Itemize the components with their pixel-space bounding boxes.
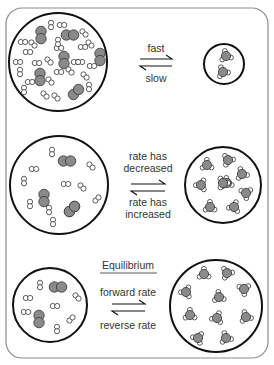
large-atom — [56, 282, 66, 292]
small-atom — [30, 79, 35, 84]
small-diatomic-molecule — [37, 280, 42, 290]
small-atom — [83, 44, 88, 49]
forward-label-2a: rate has — [129, 150, 167, 162]
large-atom — [196, 180, 205, 189]
small-diatomic-molecule — [61, 181, 71, 186]
small-diatomic-molecule — [55, 37, 60, 47]
small-atom — [46, 210, 51, 215]
small-diatomic-molecule — [18, 39, 28, 44]
small-diatomic-molecule — [13, 59, 23, 64]
small-atom — [59, 69, 64, 74]
small-atom — [89, 43, 94, 48]
large-atom — [65, 156, 75, 166]
small-atom — [49, 152, 54, 157]
large-atom — [69, 201, 79, 211]
small-atom — [26, 309, 31, 314]
reverse-label-1: slow — [145, 72, 166, 84]
small-atom — [92, 63, 97, 68]
large-atom — [73, 84, 83, 94]
large-diatomic-molecule — [59, 51, 69, 69]
small-atom — [55, 96, 60, 101]
large-atom — [222, 268, 231, 277]
forward-label-2b: decreased — [123, 162, 172, 174]
small-atom — [44, 94, 49, 99]
small-atom — [70, 315, 75, 320]
small-atom — [28, 295, 33, 300]
small-atom — [48, 25, 53, 30]
small-atom — [34, 166, 39, 171]
small-atom — [66, 181, 71, 186]
small-diatomic-molecule — [21, 309, 31, 314]
small-atom — [76, 59, 81, 64]
small-atom — [83, 32, 88, 37]
small-atom — [21, 90, 26, 95]
forward-label-3: forward rate — [100, 286, 156, 298]
small-atom — [76, 296, 81, 301]
large-atom — [241, 188, 250, 197]
large-atom — [68, 30, 78, 40]
small-diatomic-molecule — [21, 176, 26, 186]
large-atom — [199, 269, 208, 278]
small-atom — [54, 329, 59, 334]
small-atom — [49, 80, 54, 85]
small-diatomic-molecule — [71, 59, 81, 64]
large-atom — [237, 169, 246, 178]
small-diatomic-molecule — [78, 44, 88, 49]
small-diatomic-molecule — [23, 295, 33, 300]
product-container-3 — [170, 260, 262, 352]
small-diatomic-molecule — [46, 205, 51, 215]
reverse-label-3: reverse rate — [100, 319, 156, 331]
small-atom — [37, 285, 42, 290]
large-atom — [34, 317, 44, 327]
large-atom — [214, 292, 223, 301]
large-diatomic-molecule — [58, 156, 76, 166]
large-atom — [218, 67, 227, 76]
large-atom — [241, 312, 250, 321]
small-diatomic-molecule — [27, 199, 32, 209]
small-diatomic-molecule — [23, 49, 33, 54]
small-atom — [27, 204, 32, 209]
large-atom — [35, 75, 45, 85]
small-diatomic-molecule — [29, 166, 39, 171]
small-atom — [55, 303, 60, 308]
small-diatomic-molecule — [21, 85, 26, 95]
large-atom — [193, 333, 202, 342]
large-atom — [229, 202, 238, 211]
large-atom — [205, 202, 214, 211]
large-atom — [218, 178, 227, 187]
large-diatomic-molecule — [61, 30, 79, 40]
small-atom — [32, 43, 37, 48]
small-diatomic-molecule — [87, 63, 97, 68]
equilibrium-diagram: fast slow rate has decreased rate has in… — [0, 0, 274, 365]
large-diatomic-molecule — [34, 310, 44, 328]
small-atom — [81, 186, 86, 191]
small-diatomic-molecule — [49, 147, 54, 157]
small-atom — [90, 165, 95, 170]
equilibrium-heading: Equilibrium — [102, 259, 154, 271]
large-diatomic-molecule — [49, 282, 67, 292]
small-diatomic-molecule — [25, 79, 35, 84]
large-atom — [36, 33, 46, 43]
small-atom — [96, 195, 101, 200]
forward-label-1: fast — [148, 42, 165, 54]
small-diatomic-molecule — [54, 69, 64, 74]
large-atom — [202, 160, 211, 169]
large-atom — [181, 287, 190, 296]
small-atom — [17, 72, 22, 77]
small-atom — [69, 70, 74, 75]
large-diatomic-molecule — [36, 26, 46, 44]
small-diatomic-molecule — [17, 67, 22, 77]
small-diatomic-molecule — [48, 20, 53, 30]
small-atom — [18, 59, 23, 64]
large-diatomic-molecule — [95, 48, 105, 66]
large-atom — [239, 284, 248, 293]
small-atom — [55, 42, 60, 47]
large-atom — [221, 333, 230, 342]
reverse-label-2b: increased — [125, 208, 171, 220]
small-diatomic-molecule — [32, 60, 42, 65]
small-atom — [84, 75, 89, 80]
large-atom — [223, 155, 232, 164]
small-diatomic-molecule — [50, 303, 60, 308]
large-diatomic-molecule — [39, 189, 49, 207]
small-atom — [23, 39, 28, 44]
